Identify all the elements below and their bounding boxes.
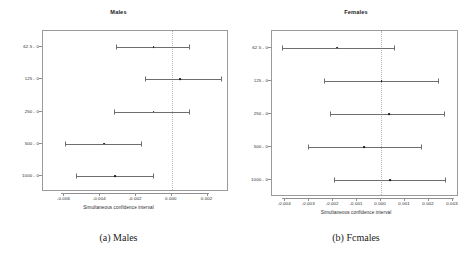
x-axis-tick-label: -0.003 xyxy=(302,201,315,206)
chart-title-males: Males xyxy=(0,9,237,15)
zero-reference-line xyxy=(172,31,173,190)
x-axis-tick-label: 0.003 xyxy=(446,201,458,206)
interval-upper-cap xyxy=(438,78,439,83)
y-axis-tick-label: 1000 - 0 xyxy=(22,172,39,177)
interval-lower-cap xyxy=(65,141,66,146)
y-axis-tick xyxy=(39,143,42,144)
y-axis-tick-label: 62.5 - 0 xyxy=(252,44,268,49)
y-axis-tick-label: 500 - 0 xyxy=(25,140,39,145)
zero-reference-line xyxy=(381,31,382,195)
x-axis-tick-label: -0.002 xyxy=(128,196,141,201)
y-axis-tick xyxy=(268,146,271,147)
y-axis-tick xyxy=(39,175,42,176)
estimate-point xyxy=(103,143,105,145)
interval-lower-cap xyxy=(76,173,77,178)
figure-container: Males 62.5 - 0125 - 0250 - 0500 - 01000 … xyxy=(0,0,475,265)
x-axis-tick-label: 0.002 xyxy=(201,196,213,201)
y-axis-tick-label: 62.5 - 0 xyxy=(23,44,39,49)
y-axis-tick-label: 125 - 0 xyxy=(25,76,39,81)
estimate-point xyxy=(153,111,155,113)
interval-upper-cap xyxy=(189,109,190,114)
x-axis-tick-label: 0.000 xyxy=(165,196,177,201)
interval-upper-cap xyxy=(221,77,222,82)
y-axis-tick xyxy=(268,47,271,48)
x-axis-tick-label: 0.001 xyxy=(398,201,410,206)
interval-lower-cap xyxy=(334,178,335,183)
y-axis-tick xyxy=(39,78,42,79)
interval-upper-cap xyxy=(421,145,422,150)
interval-upper-cap xyxy=(445,178,446,183)
estimate-point xyxy=(153,46,155,48)
y-axis-tick xyxy=(39,46,42,47)
y-axis-tick xyxy=(268,179,271,180)
interval-lower-cap xyxy=(282,45,283,50)
interval-upper-cap xyxy=(444,112,445,117)
x-axis-tick-label: 0.002 xyxy=(422,201,434,206)
x-axis-tick-label: -0.006 xyxy=(57,196,70,201)
interval-lower-cap xyxy=(324,78,325,83)
subfigure-caption-a: (a) Males xyxy=(0,232,237,243)
chart-panel-females: Females 62.5 - 0125 - 0250 - 0500 - 0100… xyxy=(237,0,475,225)
x-axis-title: Simultaneous confidence interval xyxy=(0,205,237,210)
estimate-point xyxy=(388,113,390,115)
interval-upper-cap xyxy=(394,45,395,50)
x-axis-tick-label: -0.004 xyxy=(93,196,106,201)
chart-title-females: Females xyxy=(237,9,475,15)
plot-area-males xyxy=(42,30,228,191)
interval-lower-cap xyxy=(145,77,146,82)
estimate-point xyxy=(363,146,365,148)
y-axis-tick xyxy=(268,113,271,114)
estimate-point xyxy=(337,47,339,49)
y-axis-tick-label: 500 - 0 xyxy=(254,144,268,149)
interval-upper-cap xyxy=(189,45,190,50)
interval-lower-cap xyxy=(308,145,309,150)
estimate-point xyxy=(114,175,116,177)
x-axis-tick-label: 0.000 xyxy=(374,201,386,206)
subfigure-caption-b: (b) Fcmales xyxy=(237,232,475,243)
estimate-point xyxy=(179,78,181,80)
confidence-interval-line xyxy=(330,114,444,115)
x-axis-tick-label: -0.004 xyxy=(278,201,291,206)
y-axis-tick xyxy=(39,111,42,112)
interval-lower-cap xyxy=(116,45,117,50)
y-axis-tick-label: 125 - 0 xyxy=(254,77,268,82)
interval-lower-cap xyxy=(330,112,331,117)
estimate-point xyxy=(389,179,391,181)
x-axis-tick-label: -0.002 xyxy=(326,201,339,206)
confidence-interval-line xyxy=(145,79,221,80)
y-axis-tick-label: 250 - 0 xyxy=(254,111,268,116)
interval-upper-cap xyxy=(153,173,154,178)
interval-upper-cap xyxy=(141,141,142,146)
x-axis-title: Simultaneous confidence interval xyxy=(237,210,475,215)
interval-lower-cap xyxy=(114,109,115,114)
y-axis-tick-label: 1000 - 0 xyxy=(251,177,268,182)
x-axis-tick-label: -0.001 xyxy=(350,201,363,206)
chart-panel-males: Males 62.5 - 0125 - 0250 - 0500 - 01000 … xyxy=(0,0,237,225)
y-axis-tick xyxy=(268,80,271,81)
y-axis-tick-label: 250 - 0 xyxy=(25,108,39,113)
plot-area-females xyxy=(271,30,458,196)
estimate-point xyxy=(381,80,383,82)
